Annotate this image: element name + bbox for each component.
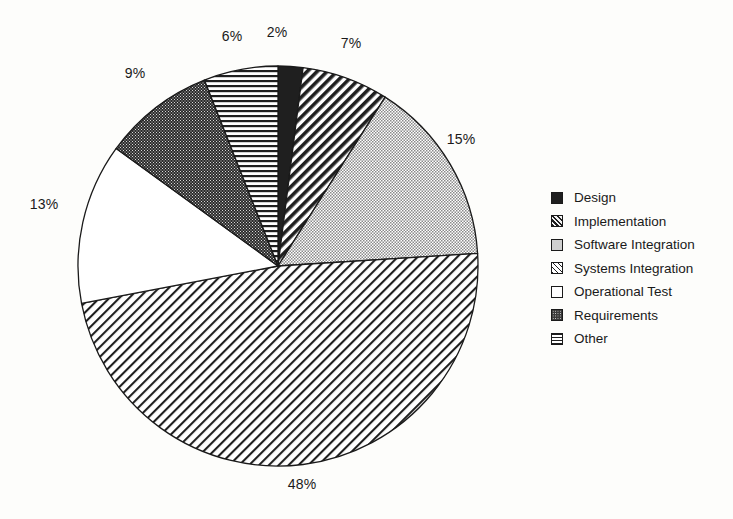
legend-label-operational-test: Operational Test xyxy=(574,285,672,299)
legend-swatch-requirements xyxy=(551,309,563,321)
legend-item-other[interactable]: Other xyxy=(551,327,731,351)
slice-label-operational-test: 13% xyxy=(30,196,59,212)
legend-swatch-systems-integration xyxy=(551,262,563,274)
legend-label-software-integration: Software Integration xyxy=(574,238,695,252)
legend-swatch-design xyxy=(551,192,563,204)
slice-label-requirements: 9% xyxy=(125,65,146,81)
legend-label-design: Design xyxy=(574,191,616,205)
legend-swatch-other xyxy=(551,333,563,345)
pie-slices-group xyxy=(78,66,478,466)
slice-label-implementation: 7% xyxy=(341,35,362,51)
legend-item-implementation[interactable]: Implementation xyxy=(551,210,731,234)
legend-label-implementation: Implementation xyxy=(574,215,666,229)
legend-label-requirements: Requirements xyxy=(574,309,658,323)
pie-chart-figure: 2% 7% 15% 48% 13% 9% 6% DesignImplementa… xyxy=(0,0,733,519)
slice-label-other: 6% xyxy=(222,28,243,44)
slice-label-software-integration: 15% xyxy=(447,131,476,147)
legend-item-requirements[interactable]: Requirements xyxy=(551,304,731,328)
chart-legend: DesignImplementationSoftware Integration… xyxy=(551,186,731,351)
slice-label-systems-integration: 48% xyxy=(288,476,317,492)
legend-swatch-software-integration xyxy=(551,239,563,251)
legend-swatch-operational-test xyxy=(551,286,563,298)
legend-item-design[interactable]: Design xyxy=(551,186,731,210)
legend-swatch-implementation xyxy=(551,215,563,227)
legend-item-software-integration[interactable]: Software Integration xyxy=(551,233,731,257)
slice-label-design: 2% xyxy=(267,24,288,40)
legend-label-systems-integration: Systems Integration xyxy=(574,262,693,276)
legend-item-operational-test[interactable]: Operational Test xyxy=(551,280,731,304)
legend-label-other: Other xyxy=(574,332,608,346)
legend-item-systems-integration[interactable]: Systems Integration xyxy=(551,257,731,281)
